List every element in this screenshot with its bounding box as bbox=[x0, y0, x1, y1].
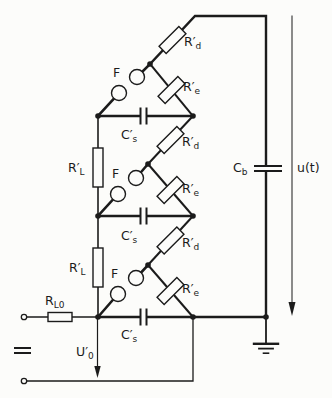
sparkgap2-label: F bbox=[112, 166, 119, 181]
sparkgap1-label: F bbox=[113, 65, 120, 80]
node-left1 bbox=[95, 113, 101, 119]
wires bbox=[27, 16, 266, 381]
label-main: C′ bbox=[121, 327, 133, 342]
node-right3 bbox=[190, 314, 196, 320]
rl0-resistor-body bbox=[48, 313, 72, 322]
node-ground-junction bbox=[263, 314, 269, 320]
label-main: R′ bbox=[69, 260, 81, 275]
re1-resistor-body bbox=[158, 77, 185, 104]
cs2-capacitor bbox=[141, 209, 147, 224]
cb-label: Cb bbox=[233, 160, 248, 177]
label-sub: s bbox=[133, 235, 138, 245]
node-apex1 bbox=[147, 61, 153, 67]
cs3-capacitor bbox=[141, 310, 147, 325]
input-terminal-bottom-icon bbox=[21, 378, 26, 383]
rd1-resistor-body bbox=[159, 27, 186, 54]
re3-label: R′e bbox=[182, 281, 200, 298]
sparkgap1-sphere-b bbox=[112, 86, 127, 101]
rd3-label: R′d bbox=[182, 235, 199, 252]
node-left2 bbox=[95, 213, 101, 219]
label-main: R′ bbox=[182, 181, 194, 196]
sparkgap2-sphere-b bbox=[111, 187, 126, 202]
label-sub: e bbox=[195, 86, 201, 96]
re1-label: R′e bbox=[183, 79, 201, 96]
label-main: C′ bbox=[121, 127, 133, 142]
re2-label: R′e bbox=[182, 181, 200, 198]
sparkgap1-sphere-a bbox=[130, 70, 145, 85]
cs3-label: C′s bbox=[121, 327, 138, 344]
label-sub: d bbox=[194, 242, 200, 252]
label-main: R′ bbox=[182, 235, 194, 250]
label-sub: b bbox=[242, 167, 248, 177]
rd2-resistor-body bbox=[157, 127, 184, 154]
rl1-label: R′L bbox=[68, 160, 85, 177]
label-sub: 0 bbox=[88, 351, 94, 361]
sparkgap2-sphere-a bbox=[129, 171, 144, 186]
label-main: R′ bbox=[184, 34, 196, 49]
rd3-resistor-body bbox=[157, 227, 184, 254]
rd1-label: R′d bbox=[184, 34, 201, 51]
cs2-label: C′s bbox=[121, 228, 138, 245]
input-return-wire bbox=[27, 317, 193, 381]
label-sub: L0 bbox=[54, 300, 65, 310]
label-main: R′ bbox=[182, 281, 194, 296]
ut-label: u(t) bbox=[297, 160, 320, 175]
u0-label: U′0 bbox=[76, 344, 94, 361]
label-main: R′ bbox=[183, 79, 195, 94]
node-apex3 bbox=[145, 262, 151, 268]
node-apex2 bbox=[145, 161, 151, 167]
labels: F F F R′d R′d R′d R′e R′e R′e C′s C′s C′… bbox=[45, 34, 320, 361]
marx-generator-schematic: F F F R′d R′d R′d R′e R′e R′e C′s C′s C′… bbox=[0, 0, 332, 398]
rl2-resistor-body bbox=[93, 248, 103, 287]
node-right2 bbox=[190, 213, 196, 219]
label-sub: L bbox=[81, 267, 86, 277]
u0-arrowhead-icon bbox=[94, 366, 100, 378]
circuit-diagram: F F F R′d R′d R′d R′e R′e R′e C′s C′s C′… bbox=[0, 0, 332, 398]
label-sub: e bbox=[194, 188, 200, 198]
sparkgap3-label: F bbox=[111, 266, 118, 281]
ut-arrowhead-icon bbox=[289, 302, 296, 316]
label-sub: e bbox=[194, 288, 200, 298]
cb-capacitor bbox=[255, 166, 281, 171]
cs1-capacitor bbox=[141, 109, 147, 124]
label-main: R′ bbox=[182, 134, 194, 149]
sparkgap3-sphere-b bbox=[111, 287, 126, 302]
cs1-label: C′s bbox=[121, 127, 138, 144]
label-main: C bbox=[233, 160, 242, 175]
label-sub: s bbox=[133, 134, 138, 144]
rl1-resistor-body bbox=[93, 148, 103, 187]
rl0-label: RL0 bbox=[45, 293, 65, 310]
ground-icon bbox=[254, 344, 278, 353]
dc-source-icon bbox=[15, 348, 30, 353]
rl2-label: R′L bbox=[69, 260, 86, 277]
label-sub: d bbox=[196, 41, 202, 51]
node-right1 bbox=[190, 113, 196, 119]
sparkgap3-sphere-a bbox=[129, 271, 144, 286]
label-main: U′ bbox=[76, 344, 88, 359]
label-main: R′ bbox=[68, 160, 80, 175]
label-sub: s bbox=[133, 334, 138, 344]
rd2-label: R′d bbox=[182, 134, 199, 151]
label-sub: d bbox=[194, 141, 200, 151]
label-sub: L bbox=[80, 167, 85, 177]
label-main: C′ bbox=[121, 228, 133, 243]
input-terminal-top-icon bbox=[21, 314, 26, 319]
label-main: R bbox=[45, 293, 54, 308]
